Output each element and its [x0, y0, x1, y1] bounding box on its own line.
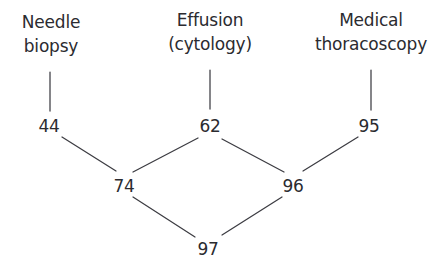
diagram-svg: Needle biopsy Effusion (cytology) Medica…	[0, 0, 440, 275]
node-value-96: 96	[282, 176, 303, 196]
header-needle-biopsy-line1: Needle	[22, 12, 80, 32]
header-medical-thoracoscopy-line1: Medical	[339, 10, 403, 30]
edge-74-to-97	[133, 197, 195, 237]
node-value-62: 62	[199, 116, 220, 136]
header-needle-biopsy-line2: biopsy	[24, 36, 79, 56]
diagram-canvas: Needle biopsy Effusion (cytology) Medica…	[0, 0, 440, 275]
node-value-74: 74	[113, 176, 134, 196]
edge-44-to-74	[62, 137, 116, 171]
node-value-97: 97	[197, 239, 218, 259]
header-medical-thoracoscopy-line2: thoracoscopy	[315, 34, 427, 54]
header-effusion-cytology-line1: Effusion	[177, 10, 244, 30]
node-value-44: 44	[38, 116, 59, 136]
edge-62-to-74	[133, 138, 198, 172]
edge-62-to-96	[222, 139, 284, 172]
node-value-95: 95	[358, 116, 379, 136]
header-effusion-cytology-line2: (cytology)	[168, 34, 252, 54]
edge-96-to-97	[222, 197, 282, 235]
edge-95-to-96	[303, 137, 358, 171]
